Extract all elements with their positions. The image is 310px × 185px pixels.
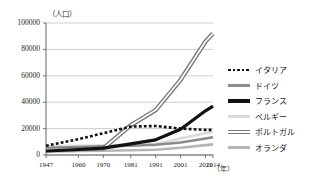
legend-label: イタリア <box>255 64 287 75</box>
legend-label: ベルギー <box>255 111 287 122</box>
y-tick-label: 100000 <box>0 18 40 27</box>
legend-item[interactable]: オランダ <box>228 140 310 156</box>
x-tick-label: 1970 <box>90 161 116 169</box>
legend-label: オランダ <box>255 142 287 153</box>
legend-item[interactable]: イタリア <box>228 62 310 78</box>
y-tick-label: 0 <box>0 150 40 159</box>
chart-legend: イタリアドイツフランスベルギーポルトガルオランダ <box>228 62 310 155</box>
legend-swatch-icon <box>228 96 250 106</box>
x-tick-label: 1991 <box>143 161 169 169</box>
x-tick-label: 2001 <box>168 161 194 169</box>
legend-swatch-icon <box>228 127 250 137</box>
legend-label: フランス <box>255 95 287 106</box>
series-double <box>46 34 213 150</box>
legend-label: ドイツ <box>255 80 279 91</box>
x-tick-label: 1981 <box>118 161 144 169</box>
legend-item[interactable]: ベルギー <box>228 109 310 125</box>
x-tick-label: 1947 <box>33 161 59 169</box>
legend-swatch-icon <box>228 142 250 152</box>
legend-item[interactable]: ドイツ <box>228 78 310 94</box>
legend-item[interactable]: ポルトガル <box>228 124 310 140</box>
y-tick-label: 80000 <box>0 44 40 53</box>
legend-swatch-icon <box>228 65 250 75</box>
y-tick-label: 20000 <box>0 124 40 133</box>
series-line-outer <box>46 34 213 150</box>
legend-swatch-icon <box>228 80 250 90</box>
y-axis-unit-label: （人口） <box>48 8 76 19</box>
legend-item[interactable]: フランス <box>228 93 310 109</box>
y-tick-label: 40000 <box>0 97 40 106</box>
chart-container: （人口） 100000800006000040000200000 1947196… <box>0 0 310 185</box>
x-tick-label: 1960 <box>65 161 91 169</box>
y-tick-label: 60000 <box>0 71 40 80</box>
series-line-inner <box>46 34 213 150</box>
legend-label: ポルトガル <box>255 126 295 137</box>
x-axis-unit-label: （年） <box>213 163 234 173</box>
legend-swatch-icon <box>228 111 250 121</box>
